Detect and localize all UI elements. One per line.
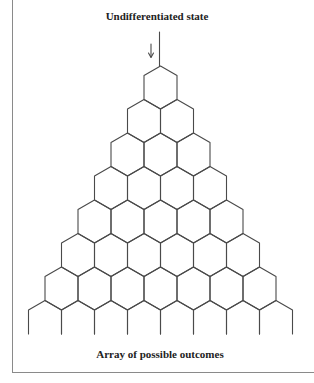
hexagon-grid xyxy=(29,66,293,334)
open-outcome-cell xyxy=(29,301,62,335)
diagram-caption: Array of possible outcomes xyxy=(3,348,314,360)
open-outcome-cell xyxy=(95,301,128,335)
open-outcome-cell xyxy=(128,301,161,335)
hexagon-lattice-diagram xyxy=(0,0,314,383)
open-outcome-cell xyxy=(260,301,293,335)
open-outcome-cell xyxy=(62,301,95,335)
open-outcome-cell xyxy=(194,301,227,335)
open-outcome-cell xyxy=(227,301,260,335)
open-outcome-cell xyxy=(161,301,194,335)
down-arrow-icon xyxy=(149,44,154,58)
